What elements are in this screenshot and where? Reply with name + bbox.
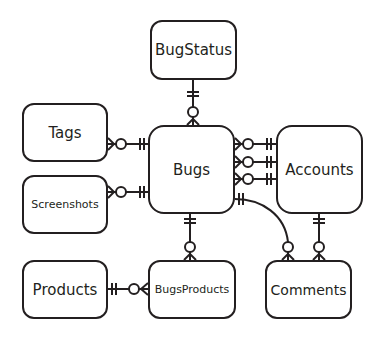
entity-screenshots[interactable]: Screenshots: [22, 175, 108, 234]
entity-bugstatus[interactable]: BugStatus: [150, 20, 237, 80]
entity-comments[interactable]: Comments: [265, 260, 352, 319]
entity-bugsproducts[interactable]: BugsProducts: [148, 260, 236, 319]
entity-label: Products: [33, 281, 98, 299]
entity-accounts[interactable]: Accounts: [276, 125, 363, 214]
entity-label: BugStatus: [155, 41, 232, 59]
entity-bugs[interactable]: Bugs: [148, 125, 235, 214]
entity-label: Bugs: [173, 161, 210, 179]
entity-label: BugsProducts: [155, 283, 230, 296]
entity-label: Comments: [271, 282, 347, 298]
entity-label: Accounts: [285, 161, 353, 179]
entity-label: Screenshots: [31, 198, 98, 211]
entity-label: Tags: [48, 124, 81, 142]
entity-tags[interactable]: Tags: [22, 103, 108, 162]
entity-products[interactable]: Products: [22, 260, 108, 319]
